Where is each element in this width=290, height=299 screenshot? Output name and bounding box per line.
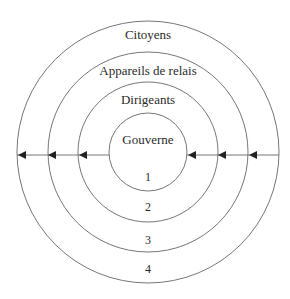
concentric-diagram: Citoyens Appareils de relais Dirigeants … — [0, 0, 290, 299]
arrow-head-icon — [249, 151, 257, 159]
arrow-head-icon — [188, 151, 196, 159]
arrow-head-icon — [48, 151, 56, 159]
label-citoyens: Citoyens — [125, 27, 171, 42]
label-appareils: Appareils de relais — [99, 63, 196, 78]
ring-number-2: 2 — [145, 200, 151, 214]
ring-number-4: 4 — [145, 262, 151, 276]
label-gouverne: Gouverne — [122, 132, 173, 147]
label-dirigeants: Dirigeants — [121, 92, 175, 107]
ring-number-3: 3 — [145, 233, 151, 247]
arrow-head-icon — [18, 151, 26, 159]
arrow-head-icon — [218, 151, 226, 159]
ring-number-1: 1 — [145, 170, 151, 184]
arrow-head-icon — [79, 151, 87, 159]
